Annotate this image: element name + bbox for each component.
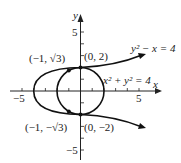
point-label-0-neg2: (0, −2) <box>84 121 114 134</box>
point-label-neg1-negsqrt3: (−1, −√3) <box>25 121 68 134</box>
point-0-neg2 <box>79 113 83 117</box>
point-label-neg1-sqrt3: (−1, √3) <box>29 52 65 65</box>
x-axis-label: x <box>152 78 158 90</box>
x-tick-label-5: 5 <box>136 92 142 104</box>
x-tick-label-neg5: −5 <box>13 92 25 104</box>
parabola-label: y² − x = 4 <box>130 42 176 54</box>
graph: y x −5 5 5 −5 y² − x = 4 x² + y² = 4 (−1… <box>0 0 181 163</box>
y-axis-label: y <box>72 9 78 21</box>
point-0-2 <box>79 66 83 70</box>
parabola-lower-arrow-icon <box>138 123 146 129</box>
circle-label: x² + y² = 4 <box>102 74 151 86</box>
point-neg1-negsqrt3 <box>67 110 71 114</box>
y-tick-label-5: 5 <box>72 26 78 38</box>
y-axis-arrow-icon <box>78 14 84 22</box>
y-tick-label-neg5: −5 <box>66 144 78 156</box>
point-neg1-sqrt3 <box>67 69 71 73</box>
point-label-0-2: (0, 2) <box>84 50 108 63</box>
